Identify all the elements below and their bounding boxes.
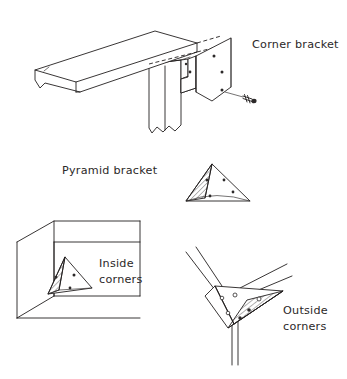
figure-canvas: Corner bracket Pyramid bracket — [0, 0, 347, 379]
bracket-hole — [238, 316, 241, 319]
pyramid-bracket-shape — [186, 164, 250, 201]
bracket-hole — [185, 63, 187, 65]
inside-corner-bracket — [48, 257, 92, 294]
bracket-illustration-figure: Corner bracket Pyramid bracket — [0, 0, 347, 379]
bracket-hole — [221, 71, 224, 74]
bracket-hole — [206, 179, 209, 182]
bracket-hole — [223, 179, 226, 182]
outside-corners-label-line2: corners — [283, 320, 327, 333]
inside-corners-label-line1: Inside — [99, 257, 134, 270]
inside-corners-label-line2: corners — [99, 273, 143, 286]
outside-corner-bracket — [205, 286, 283, 328]
pyramid-bracket-diagram: Pyramid bracket — [62, 164, 250, 201]
corner-bracket-assembly: Corner bracket — [35, 31, 339, 133]
bracket-hole — [220, 296, 224, 300]
bracket-hole — [209, 195, 212, 198]
outside-corners-diagram: Outside corners — [186, 247, 328, 365]
bracket-hole — [233, 293, 237, 297]
pyramid-bracket-label: Pyramid bracket — [62, 164, 158, 177]
bracket-hole — [226, 311, 230, 315]
bracket-hole — [213, 55, 216, 58]
bracket-hole — [247, 308, 251, 312]
corner-bracket-label: Corner bracket — [252, 38, 339, 51]
bracket-hole — [73, 274, 76, 277]
bracket-hole — [221, 89, 224, 92]
outside-corners-label-line1: Outside — [283, 304, 328, 317]
bracket-hole — [232, 191, 235, 194]
bracket-hole — [257, 297, 261, 301]
bracket-hole — [69, 287, 72, 290]
inside-corners-diagram: Inside corners — [17, 221, 143, 318]
bracket-hole — [189, 71, 192, 74]
screw — [225, 92, 257, 103]
bracket-hole — [55, 276, 58, 279]
